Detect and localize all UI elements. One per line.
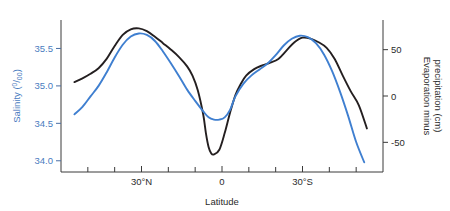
salinity-evaporation-chart: 34.034.535.035.5 -50050 30°N030°S Latitu… <box>0 0 450 211</box>
x-tick-label: 30°S <box>292 176 313 187</box>
right-axis-ticks <box>383 50 388 143</box>
right-tick-label: 50 <box>391 44 402 55</box>
series-salinity <box>74 33 364 162</box>
x-tick-label: 30°N <box>131 176 152 187</box>
svg-text:precipitation (cm): precipitation (cm) <box>433 60 444 133</box>
left-tick-label: 34.5 <box>35 118 54 129</box>
left-axis-title: Salinity (0/00) <box>11 69 23 123</box>
axis-frame <box>61 20 383 172</box>
left-axis-ticks <box>56 48 61 160</box>
right-tick-label: 0 <box>391 91 396 102</box>
right-axis-tick-labels: -50050 <box>391 44 405 148</box>
series-evaporation-minus-precipitation <box>74 28 366 155</box>
svg-text:Salinity (0/00): Salinity (0/00) <box>11 69 23 123</box>
x-axis-ticks <box>88 166 356 172</box>
left-axis-tick-labels: 34.034.535.035.5 <box>35 43 54 166</box>
left-tick-label: 35.0 <box>35 80 54 91</box>
x-axis-title: Latitude <box>205 196 239 207</box>
left-tick-label: 34.0 <box>35 155 54 166</box>
left-tick-label: 35.5 <box>35 43 54 54</box>
x-tick-label: 0 <box>219 176 224 187</box>
svg-text:Evaporation minus: Evaporation minus <box>422 57 433 136</box>
chart-canvas: 34.034.535.035.5 -50050 30°N030°S Latitu… <box>0 0 450 211</box>
right-axis-title: Evaporation minus precipitation (cm) <box>422 57 444 136</box>
x-axis-tick-labels: 30°N030°S <box>131 176 313 187</box>
right-tick-label: -50 <box>391 137 405 148</box>
